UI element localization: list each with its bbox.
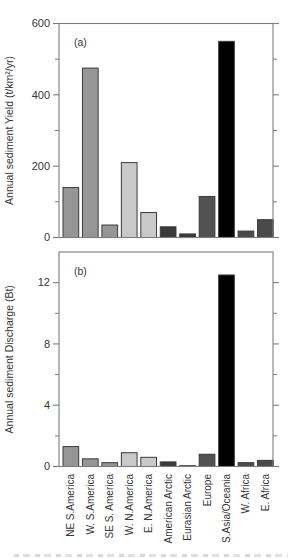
bar-a-w-s-america (82, 68, 98, 237)
bar-b-se-s-america (102, 463, 118, 467)
bar-a-w-n-america (121, 163, 137, 238)
chart-canvas: 0200400600(a)Annual sediment Yield (t/km… (0, 0, 294, 558)
bar-a-ne-s-america (63, 188, 79, 238)
bar-b-w-s-america (82, 459, 98, 467)
y-tick-label-a: 400 (32, 89, 50, 101)
y-tick-label-b: 12 (38, 276, 50, 288)
y-tick-label-b: 0 (44, 460, 50, 472)
x-category-label-europe: Europe (202, 474, 213, 507)
x-category-label-se-s-america: SE S. America (104, 474, 115, 539)
y-axis-title-a: Annual sediment Yield (t/km²/yr) (3, 56, 15, 205)
bar-a-e-africa (258, 220, 274, 238)
y-tick-label-b: 4 (44, 399, 50, 411)
panel-label-b: (b) (74, 265, 87, 277)
y-tick-label-a: 0 (44, 231, 50, 243)
y-axis-title-b: Annual sediment Discharge (Bt) (3, 285, 15, 433)
bar-b-ne-s-america (63, 447, 79, 467)
bar-b-w-africa (238, 463, 254, 467)
bar-a-europe (199, 196, 215, 237)
bar-a-american-arctic (160, 227, 176, 238)
bar-a-s-asia-oceania (219, 41, 235, 237)
x-category-label-ne-s-america: NE S.America (65, 474, 76, 537)
cropped-caption-artifact (14, 554, 288, 557)
panel-b-frame (59, 252, 273, 467)
y-tick-label-a: 200 (32, 160, 50, 172)
x-category-label-eurasian-arctic: Eurasian Arctic (182, 474, 193, 541)
panel-label-a: (a) (74, 36, 87, 48)
bar-b-american-arctic (160, 462, 176, 467)
x-category-label-e-n-america: E. N.America (143, 474, 154, 533)
x-category-label-w-s-america: W. S.America (85, 474, 96, 535)
bar-a-e-n-america (141, 213, 157, 238)
x-category-label-e-africa: E. Africa (260, 474, 271, 512)
bar-b-e-n-america (141, 457, 157, 466)
x-category-label-s-asia-oceania: S.Asia/Oceania (221, 474, 232, 543)
y-tick-label-b: 8 (44, 338, 50, 350)
bar-a-w-africa (238, 231, 254, 237)
bar-a-se-s-america (102, 225, 118, 237)
bar-b-europe (199, 454, 215, 466)
x-category-label-american-arctic: American Arctic (163, 474, 174, 543)
x-category-label-w-n-america: W. N.America (124, 474, 135, 536)
y-tick-label-a: 600 (32, 17, 50, 29)
two-panel-sediment-bar-figure: 0200400600(a)Annual sediment Yield (t/km… (0, 0, 294, 558)
x-category-label-w-africa: W. Africa (240, 474, 251, 514)
bar-b-s-asia-oceania (219, 275, 235, 467)
bar-b-w-n-america (121, 453, 137, 467)
bar-b-e-africa (258, 460, 274, 466)
